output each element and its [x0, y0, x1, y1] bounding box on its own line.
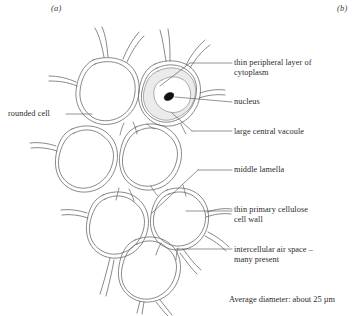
parenchyma-cell-diagram: [0, 0, 354, 316]
leader-vacuole-d: [172, 113, 192, 131]
label-nucleus: nucleus: [234, 97, 352, 107]
cell-right-middle: [150, 188, 208, 250]
figure-page: (a) (b): [0, 0, 354, 316]
label-large-central-vacuole: large central vacoule: [234, 127, 352, 137]
cell-with-nucleus: [138, 61, 200, 126]
wall-stubs: [30, 27, 232, 316]
cell-bottom-center: [118, 237, 180, 302]
label-intercellular-air-space: intercellular air space – many present: [234, 245, 352, 264]
label-middle-lamella: middle lamella: [234, 165, 352, 175]
cell-lower-left: [86, 192, 148, 258]
cell-middle-left: [55, 126, 117, 192]
cell-top-left: [76, 58, 139, 125]
label-thin-peripheral-cytoplasm: thin peripheral layer of cytoplasm: [234, 58, 352, 77]
cell-middle-center: [119, 124, 181, 190]
label-rounded-cell: rounded cell: [8, 109, 70, 119]
figure-caption: Average diameter: about 25 µm: [229, 295, 335, 304]
label-thin-primary-cellulose-cell-wall: thin primary cellulose cell wall: [234, 205, 352, 224]
